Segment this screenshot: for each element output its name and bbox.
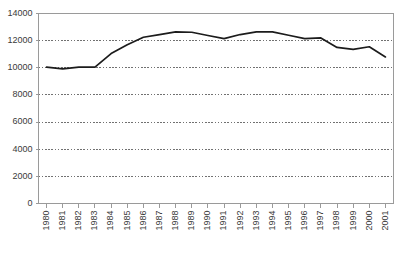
x-tick-label-1997: 1997 [315, 211, 325, 231]
x-tick-label-1986: 1986 [138, 211, 148, 231]
x-tick-label-1990: 1990 [202, 211, 212, 231]
x-tick-label-1993: 1993 [251, 211, 261, 231]
y-tick-label-12000: 12000 [7, 35, 32, 45]
x-tick-label-1988: 1988 [170, 211, 180, 231]
x-tick-label-1982: 1982 [73, 211, 83, 231]
x-tick-label-1995: 1995 [283, 211, 293, 231]
line-chart: 0200040006000800010000120001400019801981… [0, 0, 408, 257]
x-tick-label-1981: 1981 [57, 211, 67, 231]
x-tick-label-2001: 2001 [380, 211, 390, 231]
x-tick-label-1984: 1984 [105, 211, 115, 231]
x-tick-label-1996: 1996 [299, 211, 309, 231]
x-tick-label-1989: 1989 [186, 211, 196, 231]
y-tick-label-6000: 6000 [12, 116, 32, 126]
x-tick-label-1987: 1987 [154, 211, 164, 231]
x-tick-label-1980: 1980 [41, 211, 51, 231]
x-tick-label-2000: 2000 [364, 211, 374, 231]
y-tick-label-14000: 14000 [7, 8, 32, 18]
plot-area-background [39, 14, 394, 204]
x-tick-label-1999: 1999 [348, 211, 358, 231]
y-tick-label-0: 0 [27, 198, 32, 208]
x-tick-label-1998: 1998 [331, 211, 341, 231]
y-tick-label-10000: 10000 [7, 62, 32, 72]
y-tick-label-4000: 4000 [12, 144, 32, 154]
x-tick-label-1991: 1991 [218, 211, 228, 231]
x-tick-label-1985: 1985 [122, 211, 132, 231]
y-tick-label-2000: 2000 [12, 171, 32, 181]
x-tick-label-1992: 1992 [235, 211, 245, 231]
chart-canvas: 0200040006000800010000120001400019801981… [0, 0, 408, 257]
y-tick-label-8000: 8000 [12, 89, 32, 99]
x-tick-label-1994: 1994 [267, 211, 277, 231]
x-tick-label-1983: 1983 [89, 211, 99, 231]
